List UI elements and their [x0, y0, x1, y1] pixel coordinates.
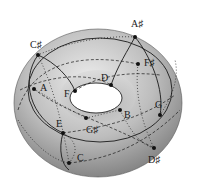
label-c: C	[77, 152, 84, 163]
label-g-sharp: G♯	[86, 124, 98, 135]
label-f-sharp: F♯	[144, 57, 155, 68]
torus-hole	[70, 83, 122, 113]
node-c-sharp	[36, 53, 40, 57]
node-e	[61, 131, 65, 135]
torus-svg: A♯ C♯ F♯ A F D G B E G♯ C D♯	[0, 0, 198, 186]
node-b	[118, 108, 122, 112]
node-g	[158, 113, 162, 117]
label-a-sharp: A♯	[131, 18, 143, 29]
label-b: B	[124, 109, 131, 120]
label-c-sharp: C♯	[30, 39, 42, 50]
node-g-sharp	[84, 116, 88, 120]
label-f: F	[64, 88, 70, 99]
node-a	[32, 87, 36, 91]
node-d	[109, 83, 113, 87]
label-d-sharp: D♯	[148, 154, 160, 165]
label-g: G	[155, 99, 162, 110]
node-f	[73, 89, 77, 93]
label-e: E	[56, 118, 62, 129]
label-d: D	[101, 72, 108, 83]
label-a: A	[40, 82, 48, 93]
torus-diagram: A♯ C♯ F♯ A F D G B E G♯ C D♯	[0, 0, 198, 186]
node-a-sharp	[133, 35, 137, 39]
node-f-sharp	[136, 62, 140, 66]
node-c	[67, 161, 71, 165]
node-d-sharp	[152, 146, 156, 150]
